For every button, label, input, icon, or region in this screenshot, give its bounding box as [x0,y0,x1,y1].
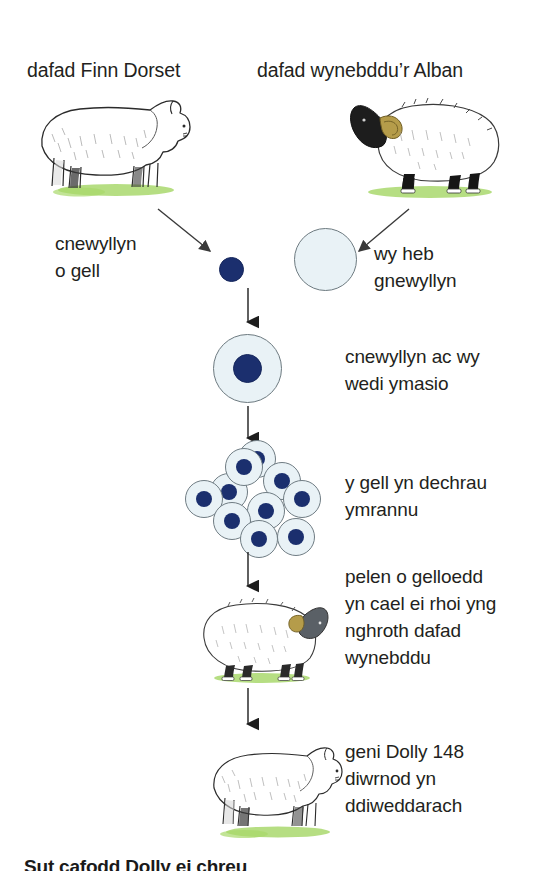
arrow-to-nucleus [155,205,225,263]
cluster-cell-nucleus [251,531,267,547]
label-implanted-into-surrogate: pelen o gelloedd yn cael ei rhoi yng ngh… [345,563,496,671]
label-dolly-born: geni Dolly 148 diwrnod yn ddiweddarach [345,738,464,819]
figure-caption: Sut cafodd Dolly ei chreu [24,856,247,871]
cluster-cell-nucleus [196,491,212,507]
cluster-cell-nucleus [288,529,304,545]
cluster-cell-nucleus [224,513,240,529]
arrow-to-surrogate-ewe [241,552,255,596]
label-fused-nucleus-and-egg: cnewyllyn ac wy wedi ymasio [345,343,480,397]
illustration-finn-dorset-sheep [24,88,200,200]
nucleus-cell [219,257,244,282]
label-scottish-blackface-sheep: dafad wynebddu’r Alban [257,57,463,84]
cell-cluster [185,440,305,552]
arrow-to-fused-cell [241,288,255,332]
dolly-cloning-diagram: dafad Finn Dorset dafad wynebddu’r Alban [0,0,555,871]
cluster-cell-nucleus [294,491,310,507]
illustration-dolly-sheep [200,738,350,840]
cluster-cell-nucleus [236,459,252,475]
enucleated-egg [294,228,357,291]
label-egg-without-nucleus: wy heb gnewyllyn [374,240,457,294]
label-cell-starts-dividing: y gell yn dechrau ymrannu [345,469,487,523]
label-nucleus-from-cell: cnewyllyn o gell [55,230,136,284]
illustration-blackface-sheep [330,86,516,202]
cluster-cell-nucleus [258,503,274,519]
label-finn-dorset-sheep: dafad Finn Dorset [27,57,180,84]
fused-cell-nucleus [233,354,262,383]
cluster-cell-nucleus [221,484,237,500]
illustration-surrogate-blackface-ewe [188,592,334,684]
arrow-to-dolly [241,688,255,734]
